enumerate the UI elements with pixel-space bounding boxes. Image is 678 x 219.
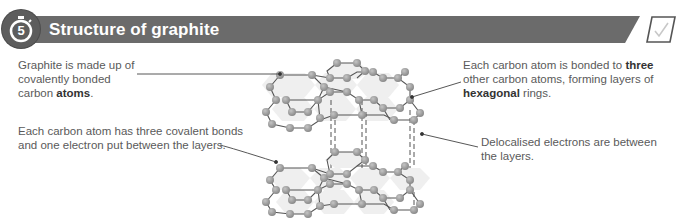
leader-dot: [410, 95, 413, 98]
leader-dot: [420, 132, 423, 135]
leader-line-three-bonds: [220, 145, 276, 162]
leader-line-hexagonal: [412, 82, 461, 97]
graphite-structure-diagram: [0, 0, 678, 219]
leader-dot: [278, 72, 281, 75]
leader-dot: [274, 160, 277, 163]
leader-line-delocalised: [422, 134, 478, 147]
